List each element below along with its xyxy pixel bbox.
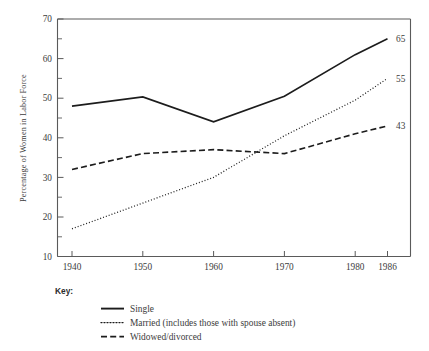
data-series-group — [72, 39, 388, 229]
x-tick-label-1940: 1940 — [63, 262, 82, 272]
key-item-widowed[interactable]: Widowed/divorced — [101, 332, 202, 342]
y-tick-label-30: 30 — [43, 173, 53, 183]
x-tick-label-1950: 1950 — [134, 262, 153, 272]
key-label-married: Married (includes those with spouse abse… — [130, 318, 295, 329]
series-line-single — [72, 39, 388, 122]
key-item-married[interactable]: Married (includes those with spouse abse… — [101, 318, 295, 329]
y-axis-tick-labels: 70 60 50 40 30 20 10 — [43, 14, 53, 262]
y-axis-ticks — [58, 19, 64, 257]
y-tick-label-10: 10 — [43, 252, 53, 262]
key-item-single[interactable]: Single — [101, 304, 154, 314]
series-end-labels: 65 55 43 — [396, 34, 406, 131]
x-tick-label-1986: 1986 — [378, 262, 397, 272]
x-axis-tick-labels: 1940 1950 1960 1970 1980 1986 — [63, 262, 397, 272]
end-label-married: 55 — [396, 74, 406, 84]
key-label-widowed: Widowed/divorced — [130, 332, 202, 342]
x-tick-label-1960: 1960 — [204, 262, 223, 272]
line-chart: 70 60 50 40 30 20 10 Percentage of Women… — [0, 0, 429, 351]
y-tick-label-60: 60 — [43, 54, 53, 64]
key-label-single: Single — [130, 304, 154, 314]
key-title: Key: — [55, 286, 73, 296]
end-label-single: 65 — [396, 34, 406, 44]
y-tick-label-50: 50 — [43, 93, 53, 103]
series-line-widowed — [72, 126, 388, 170]
y-tick-label-40: 40 — [43, 133, 53, 143]
x-axis-ticks — [72, 251, 388, 257]
y-axis-title: Percentage of Women in Labor Force — [19, 74, 28, 202]
plot-frame — [58, 19, 411, 257]
series-line-married — [72, 78, 388, 228]
y-tick-label-70: 70 — [43, 14, 53, 24]
chart-figure: 70 60 50 40 30 20 10 Percentage of Women… — [0, 0, 429, 351]
end-label-widowed: 43 — [396, 121, 406, 131]
chart-key: Key: Single Married (includes those with… — [55, 286, 295, 342]
y-tick-label-20: 20 — [43, 212, 53, 222]
x-tick-label-1970: 1970 — [275, 262, 294, 272]
x-tick-label-1980: 1980 — [346, 262, 365, 272]
